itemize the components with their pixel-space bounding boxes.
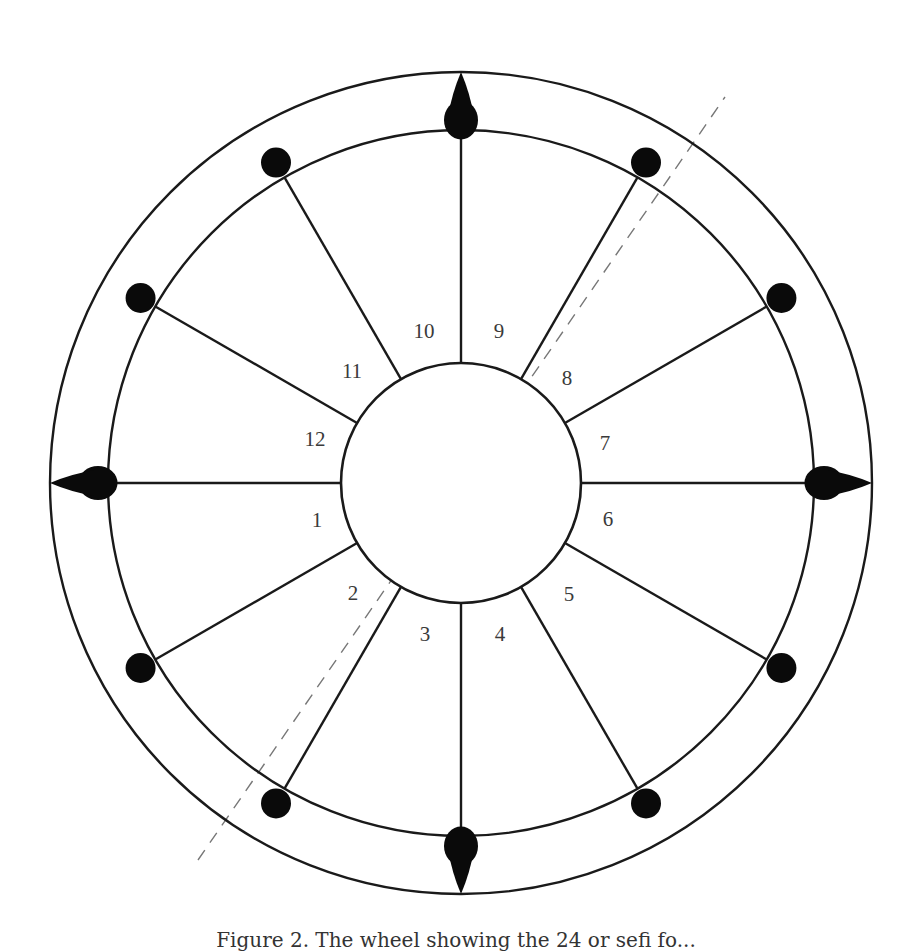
- spoke: [155, 543, 357, 660]
- round-marker-icon: [766, 653, 796, 683]
- teardrop-marker-right-icon: [804, 466, 872, 500]
- spoke: [155, 307, 357, 424]
- house-label-8: 8: [562, 366, 573, 390]
- round-marker-icon: [261, 788, 291, 818]
- spoke: [565, 543, 767, 660]
- teardrop-marker-bottom-icon: [444, 826, 478, 894]
- house-label-11: 11: [342, 359, 362, 383]
- house-label-2: 2: [348, 581, 359, 605]
- round-marker-icon: [631, 788, 661, 818]
- spoke: [285, 177, 402, 379]
- house-label-10: 10: [414, 319, 435, 343]
- house-label-3: 3: [420, 622, 431, 646]
- spoke: [521, 587, 638, 789]
- house-label-12: 12: [305, 427, 326, 451]
- house-label-6: 6: [603, 507, 614, 531]
- spoke: [521, 177, 638, 379]
- house-label-7: 7: [600, 431, 611, 455]
- round-marker-icon: [631, 148, 661, 178]
- round-marker-icon: [126, 283, 156, 313]
- spoke: [285, 587, 402, 789]
- house-label-9: 9: [494, 319, 505, 343]
- round-marker-icon: [261, 148, 291, 178]
- spoke: [565, 307, 767, 424]
- house-label-1: 1: [312, 508, 323, 532]
- round-marker-icon: [766, 283, 796, 313]
- teardrop-marker-top-icon: [444, 72, 478, 140]
- round-marker-icon: [126, 653, 156, 683]
- house-label-4: 4: [495, 622, 506, 646]
- teardrop-marker-left-icon: [50, 466, 118, 500]
- house-label-5: 5: [564, 582, 575, 606]
- hub-circle: [341, 363, 581, 603]
- figure-caption: Figure 2. The wheel showing the 24 or se…: [0, 928, 912, 952]
